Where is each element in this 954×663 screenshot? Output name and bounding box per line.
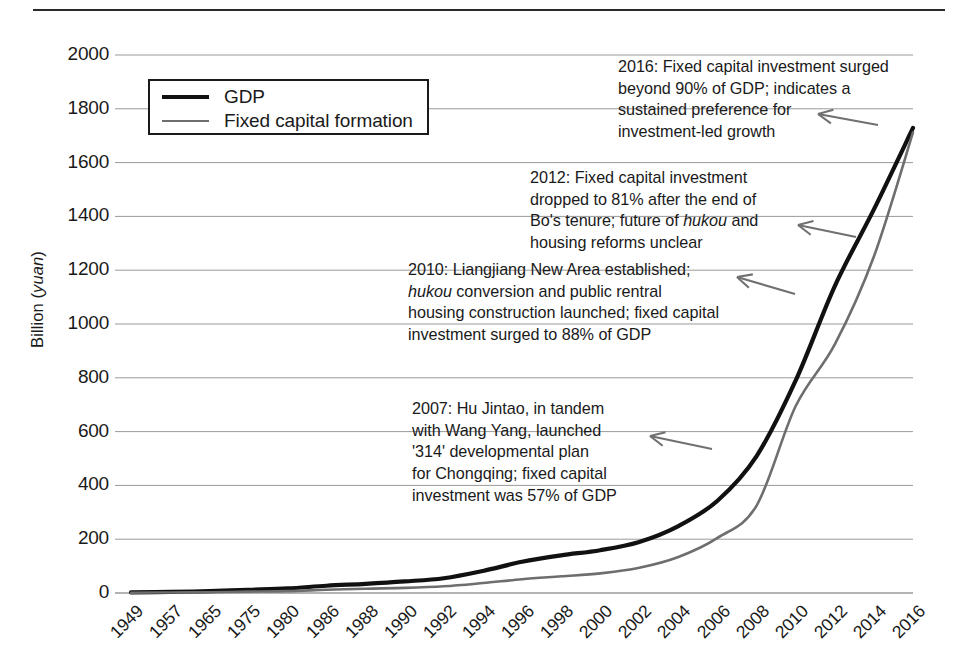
y-axis-tick-400: 400 xyxy=(37,473,109,495)
legend-item-fixed-capital-formation: Fixed capital formation xyxy=(162,110,413,132)
y-axis-tick-1600: 1600 xyxy=(37,151,109,173)
y-axis-tick-1400: 1400 xyxy=(37,204,109,226)
chart-figure: Billion (yuan) 0200400600800100012001400… xyxy=(0,0,954,663)
annot-2010-italic-term: hukou xyxy=(408,282,452,300)
legend-label-gdp: GDP xyxy=(224,86,265,108)
y-axis-tick-1000: 1000 xyxy=(37,312,109,334)
legend-swatch-gdp xyxy=(162,95,209,99)
annot-2012: 2012: Fixed capital investment dropped t… xyxy=(530,167,830,254)
legend-item-gdp: GDP xyxy=(162,86,265,108)
y-axis-tick-1200: 1200 xyxy=(37,258,109,280)
y-axis-tick-200: 200 xyxy=(37,527,109,549)
annot-2010: 2010: Liangjiang New Area established; h… xyxy=(408,259,768,346)
y-axis-tick-600: 600 xyxy=(37,420,109,442)
y-axis-tick-1800: 1800 xyxy=(37,97,109,119)
annot-2012-italic-term: hukou xyxy=(683,211,727,229)
y-axis-tick-800: 800 xyxy=(37,366,109,388)
chart-legend: GDP Fixed capital formation xyxy=(148,79,429,135)
y-axis-tick-0: 0 xyxy=(37,581,109,603)
annot-2007: 2007: Hu Jintao, in tandem with Wang Yan… xyxy=(412,398,702,507)
legend-swatch-fixed-capital-formation xyxy=(162,120,209,122)
annot-2016: 2016: Fixed capital investment surged be… xyxy=(618,56,918,143)
legend-label-fixed-capital-formation: Fixed capital formation xyxy=(224,110,413,132)
y-axis-tick-2000: 2000 xyxy=(37,43,109,65)
